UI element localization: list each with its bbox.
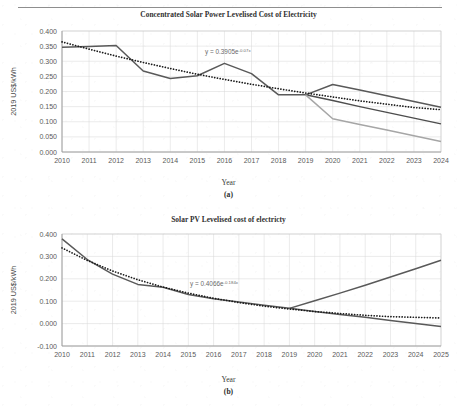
- x-axis-tick-label: 2014: [155, 351, 171, 358]
- y-axis-tick-label: 0.350: [39, 43, 57, 50]
- y-axis-tick-label: 0.050: [39, 133, 57, 140]
- svg-text:y = 0.4066e-0.184x: y = 0.4066e-0.184x: [190, 280, 239, 288]
- chart-a-svg: 0.0000.0500.1000.1500.2000.2500.3000.350…: [0, 19, 457, 177]
- x-axis-tick-label: 2020: [307, 351, 323, 358]
- x-axis-tick-label: 2011: [80, 351, 95, 358]
- x-axis-tick-label: 2013: [130, 351, 146, 358]
- x-axis-tick-label: 2024: [433, 157, 449, 164]
- chart-a-plot: 0.0000.0500.1000.1500.2000.2500.3000.350…: [0, 19, 457, 177]
- x-axis-tick-label: 2017: [244, 157, 260, 164]
- y-axis-tick-label: 0.150: [39, 103, 57, 110]
- trendline-equation: y = 0.3905e-0.07x: [205, 48, 251, 56]
- x-axis-tick-label: 2021: [332, 351, 348, 358]
- x-axis-tick-label: 2012: [105, 351, 121, 358]
- x-axis-tick-label: 2019: [298, 157, 314, 164]
- y-axis-tick-label: 0.400: [39, 28, 57, 35]
- chart-b-svg: -0.1000.0000.1000.2000.3000.400201020112…: [0, 224, 457, 374]
- y-axis-tick-label: 0.300: [39, 253, 57, 260]
- svg-text:y = 0.3905e-0.07x: y = 0.3905e-0.07x: [205, 48, 251, 56]
- y-axis-tick-label: 0.300: [39, 58, 57, 65]
- x-axis-tick-label: 2018: [256, 351, 272, 358]
- y-axis-tick-label: 0.250: [39, 73, 57, 80]
- x-axis-tick-label: 2023: [406, 157, 422, 164]
- x-axis-tick-label: 2016: [217, 157, 233, 164]
- figure-b: Solar PV Levelised cost of electricty -0…: [0, 215, 457, 405]
- page-top-rule: [18, 7, 442, 8]
- x-axis-tick-label: 2015: [190, 157, 206, 164]
- y-axis-tick-label: 0.000: [39, 320, 57, 327]
- chart-a-xaxis-title: Year: [0, 178, 457, 187]
- y-axis-title: 2019 US$/kWh: [9, 266, 18, 314]
- y-axis-tick-label: -0.100: [37, 343, 57, 350]
- x-axis-tick-label: 2020: [325, 157, 341, 164]
- y-axis-title: 2019 US$/kWh: [9, 67, 18, 115]
- figure-a: Concentrated Solar Power Levelised Cost …: [0, 10, 457, 206]
- series-line: [306, 95, 441, 124]
- chart-a-title: Concentrated Solar Power Levelised Cost …: [0, 10, 457, 19]
- x-axis-tick-label: 2024: [408, 351, 424, 358]
- x-axis-tick-label: 2022: [379, 157, 395, 164]
- document-page: Concentrated Solar Power Levelised Cost …: [0, 0, 457, 408]
- series-line: [62, 248, 441, 318]
- x-axis-tick-label: 2018: [271, 157, 287, 164]
- x-axis-tick-label: 2017: [231, 351, 247, 358]
- y-axis-tick-label: 0.400: [39, 231, 57, 238]
- x-axis-tick-label: 2019: [282, 351, 298, 358]
- x-axis-tick-label: 2011: [82, 157, 97, 164]
- x-axis-tick-label: 2022: [357, 351, 373, 358]
- y-axis-tick-label: 0.100: [39, 298, 57, 305]
- x-axis-tick-label: 2015: [181, 351, 197, 358]
- x-axis-tick-label: 2013: [135, 157, 151, 164]
- chart-b-plot: -0.1000.0000.1000.2000.3000.400201020112…: [0, 224, 457, 374]
- trendline-equation: y = 0.4066e-0.184x: [190, 280, 239, 288]
- figure-b-caption: (b): [0, 387, 457, 396]
- y-axis-tick-label: 0.100: [39, 118, 57, 125]
- y-axis-tick-label: 0.200: [39, 275, 57, 282]
- x-axis-tick-label: 2010: [54, 157, 70, 164]
- x-axis-tick-label: 2014: [162, 157, 178, 164]
- series-line: [62, 239, 289, 308]
- x-axis-tick-label: 2021: [352, 157, 368, 164]
- x-axis-tick-label: 2016: [206, 351, 222, 358]
- x-axis-tick-label: 2010: [54, 351, 70, 358]
- series-line: [306, 95, 441, 142]
- x-axis-tick-label: 2012: [108, 157, 124, 164]
- y-axis-tick-label: 0.200: [39, 88, 57, 95]
- chart-b-xaxis-title: Year: [0, 375, 457, 384]
- y-axis-tick-label: 0.000: [39, 149, 57, 156]
- figure-a-caption: (a): [0, 190, 457, 199]
- chart-b-title: Solar PV Levelised cost of electricty: [0, 215, 457, 224]
- x-axis-tick-label: 2023: [383, 351, 399, 358]
- x-axis-tick-label: 2025: [433, 351, 449, 358]
